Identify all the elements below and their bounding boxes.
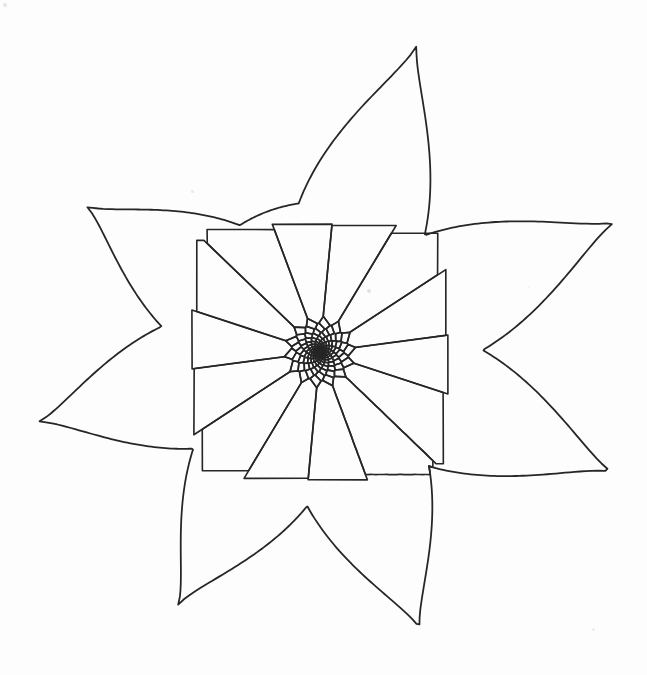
spiral-star-svg: [0, 0, 647, 675]
spiral-star-figure: [0, 0, 647, 675]
